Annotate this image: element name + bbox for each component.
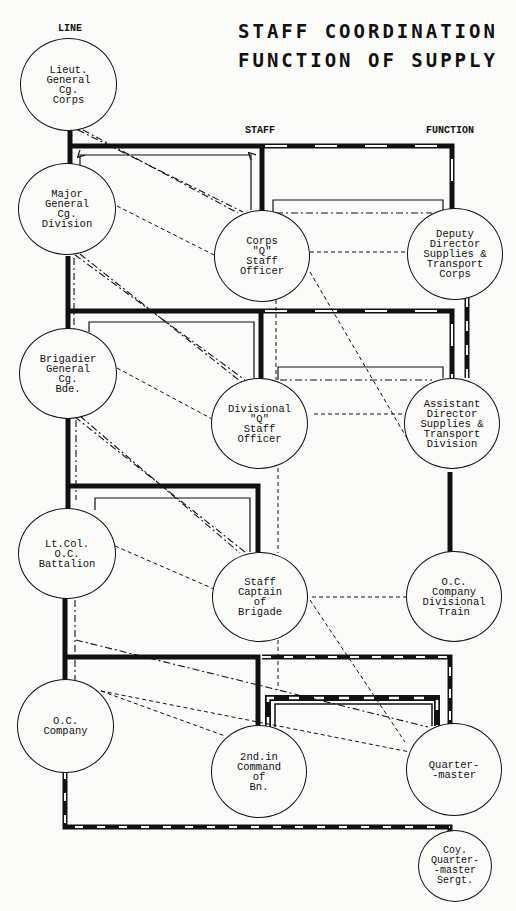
page-title-line-2: FUNCTION OF SUPPLY — [238, 49, 498, 71]
column-header-staff: STAFF — [245, 125, 275, 136]
node-second-in-command: 2nd.in Command of Bn. — [211, 725, 307, 818]
node-label: Corps "Q" Staff Officer — [240, 236, 284, 276]
node-quartermaster: Quarter- -master — [406, 723, 502, 816]
node-brigadier-general: Brigadier General Cg. Bde. — [19, 328, 117, 419]
node-staff-captain: Staff Captain of Brigade — [212, 552, 308, 642]
battalion-bar — [65, 657, 450, 727]
node-label: Lt.Col. O.C. Battalion — [39, 539, 96, 569]
node-lieut-general: Lieut. General Cg. Corps — [20, 38, 117, 131]
node-label: Staff Captain of Brigade — [238, 577, 282, 617]
node-label: Brigadier General Cg. Bde. — [40, 354, 97, 394]
node-label: Divisional "Q" Staff Officer — [228, 404, 291, 444]
node-label: 2nd.in Command of Bn. — [237, 752, 281, 792]
brigade-bar — [68, 472, 450, 552]
node-assistant-director: Assistant Director Supplies & Transport … — [404, 378, 500, 469]
node-oc-company-divisional-train: O.C. Company Divisional Train — [406, 551, 502, 642]
node-major-general: Major General Cg. Division — [18, 163, 116, 255]
node-label: O.C. Company Divisional Train — [422, 577, 485, 617]
node-label: Major General Cg. Division — [42, 189, 92, 229]
node-oc-company: O.C. Company — [17, 679, 114, 773]
node-label: Lieut. General Cg. Corps — [46, 65, 90, 105]
node-label: Quarter- -master — [429, 760, 479, 780]
node-divisional-q-staff-officer: Divisional "Q" Staff Officer — [211, 378, 308, 469]
node-coy-quartermaster-sergeant: Coy. Quarter- -master Sergt. — [418, 830, 492, 902]
corps-bar — [70, 146, 452, 212]
node-label: O.C. Company — [43, 716, 87, 736]
node-label: Deputy Director Supplies & Transport Cor… — [423, 229, 486, 279]
node-label: Coy. Quarter- -master Sergt. — [431, 846, 479, 886]
node-deputy-director: Deputy Director Supplies & Transport Cor… — [407, 208, 503, 300]
node-lt-col: Lt.Col. O.C. Battalion — [18, 508, 116, 599]
node-corps-q-staff-officer: Corps "Q" Staff Officer — [214, 210, 310, 302]
column-header-function: FUNCTION — [426, 125, 474, 136]
page-title-line-1: STAFF COORDINATION — [238, 20, 498, 42]
column-header-line: LINE — [58, 23, 82, 34]
node-label: Assistant Director Supplies & Transport … — [420, 399, 483, 449]
